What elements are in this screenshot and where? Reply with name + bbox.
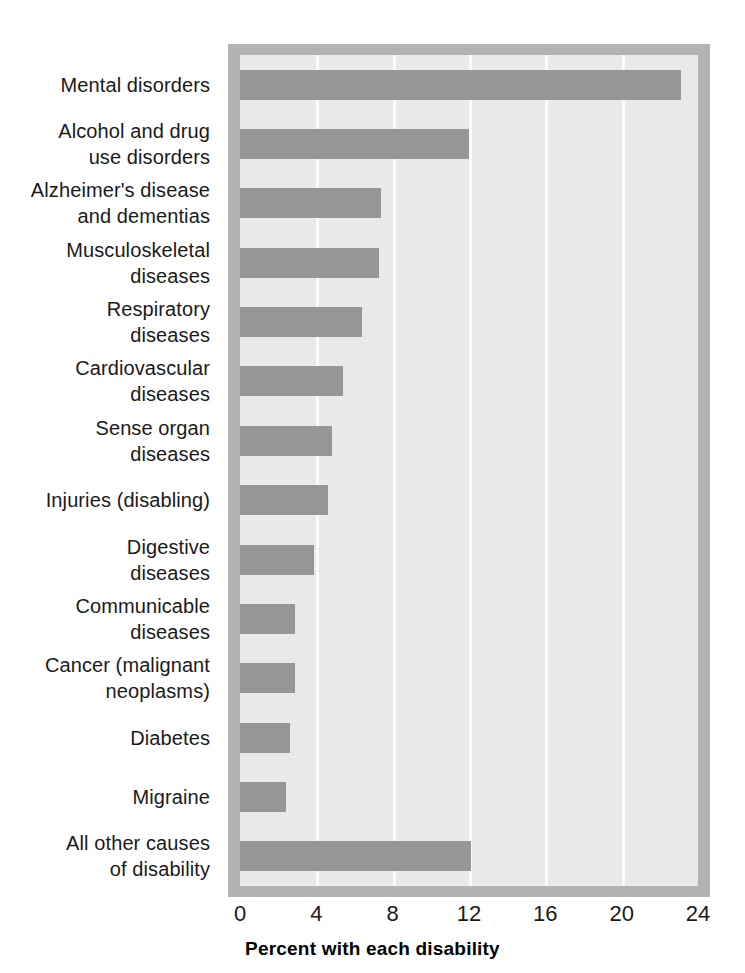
y-axis-label-0: Mental disorders (0, 72, 210, 98)
bar-2[interactable] (240, 188, 381, 218)
x-axis-ticks: 04812162024 (228, 900, 710, 934)
chart-page: Mental disordersAlcohol and druguse diso… (0, 0, 745, 973)
x-tick-label-12: 12 (457, 900, 481, 928)
y-axis-label-line: Injuries (disabling) (0, 487, 210, 513)
x-axis-title: Percent with each disability (0, 938, 745, 960)
gridline-4 (316, 55, 319, 886)
y-axis-label-line: Sense organ (0, 415, 210, 441)
bar-9[interactable] (240, 604, 295, 634)
bar-row[interactable] (240, 426, 698, 456)
y-axis-label-10: Cancer (malignantneoplasms) (0, 652, 210, 704)
bar-row[interactable] (240, 366, 698, 396)
bar-row[interactable] (240, 663, 698, 693)
y-axis-label-line: diseases (0, 441, 210, 467)
bar-5[interactable] (240, 366, 343, 396)
bar-0[interactable] (240, 70, 681, 100)
chart-frame (228, 44, 710, 897)
bar-row[interactable] (240, 248, 698, 278)
y-axis-label-4: Respiratorydiseases (0, 296, 210, 348)
bar-8[interactable] (240, 545, 314, 575)
x-tick-label-20: 20 (609, 900, 633, 928)
bar-row[interactable] (240, 723, 698, 753)
gridline-16 (545, 55, 548, 886)
bar-row[interactable] (240, 782, 698, 812)
y-axis-label-11: Diabetes (0, 725, 210, 751)
y-axis-label-6: Sense organdiseases (0, 415, 210, 467)
bar-3[interactable] (240, 248, 379, 278)
y-axis-label-line: and dementias (0, 203, 210, 229)
y-axis-label-line: Mental disorders (0, 72, 210, 98)
gridline-0 (240, 55, 243, 886)
bar-10[interactable] (240, 663, 295, 693)
x-tick-label-0: 0 (234, 900, 246, 928)
y-axis-label-line: diseases (0, 322, 210, 348)
y-axis-label-line: neoplasms) (0, 678, 210, 704)
bar-row[interactable] (240, 545, 698, 575)
y-axis-label-line: Cardiovascular (0, 355, 210, 381)
y-axis-label-7: Injuries (disabling) (0, 487, 210, 513)
y-axis-label-5: Cardiovasculardiseases (0, 355, 210, 407)
y-axis-labels: Mental disordersAlcohol and druguse diso… (0, 44, 222, 897)
y-axis-label-line: Alzheimer's disease (0, 177, 210, 203)
y-axis-label-line: Musculoskeletal (0, 237, 210, 263)
x-tick-label-8: 8 (387, 900, 399, 928)
x-tick-label-16: 16 (533, 900, 557, 928)
y-axis-label-line: Communicable (0, 593, 210, 619)
y-axis-label-3: Musculoskeletaldiseases (0, 237, 210, 289)
y-axis-label-line: diseases (0, 560, 210, 586)
bar-row[interactable] (240, 129, 698, 159)
bar-6[interactable] (240, 426, 332, 456)
bar-7[interactable] (240, 485, 328, 515)
bar-13[interactable] (240, 841, 471, 871)
x-tick-label-24: 24 (686, 900, 710, 928)
bar-row[interactable] (240, 841, 698, 871)
bar-1[interactable] (240, 129, 469, 159)
y-axis-label-2: Alzheimer's diseaseand dementias (0, 177, 210, 229)
bar-12[interactable] (240, 782, 286, 812)
y-axis-label-13: All other causesof disability (0, 830, 210, 882)
y-axis-label-line: Diabetes (0, 725, 210, 751)
x-tick-label-4: 4 (310, 900, 322, 928)
y-axis-label-line: Migraine (0, 784, 210, 810)
y-axis-label-line: use disorders (0, 144, 210, 170)
bar-row[interactable] (240, 604, 698, 634)
y-axis-label-line: diseases (0, 619, 210, 645)
y-axis-label-line: Alcohol and drug (0, 118, 210, 144)
bar-row[interactable] (240, 188, 698, 218)
gridline-12 (469, 55, 472, 886)
y-axis-label-line: Respiratory (0, 296, 210, 322)
y-axis-label-line: All other causes (0, 830, 210, 856)
y-axis-label-line: diseases (0, 263, 210, 289)
y-axis-label-line: diseases (0, 381, 210, 407)
bar-4[interactable] (240, 307, 362, 337)
bar-row[interactable] (240, 307, 698, 337)
y-axis-label-1: Alcohol and druguse disorders (0, 118, 210, 170)
y-axis-label-12: Migraine (0, 784, 210, 810)
bar-row[interactable] (240, 485, 698, 515)
y-axis-label-9: Communicablediseases (0, 593, 210, 645)
gridline-20 (622, 55, 625, 886)
plot-area (240, 55, 698, 886)
bar-11[interactable] (240, 723, 290, 753)
y-axis-label-line: Digestive (0, 534, 210, 560)
y-axis-label-line: Cancer (malignant (0, 652, 210, 678)
y-axis-label-8: Digestivediseases (0, 534, 210, 586)
gridline-8 (393, 55, 396, 886)
bar-row[interactable] (240, 70, 698, 100)
y-axis-label-line: of disability (0, 856, 210, 882)
